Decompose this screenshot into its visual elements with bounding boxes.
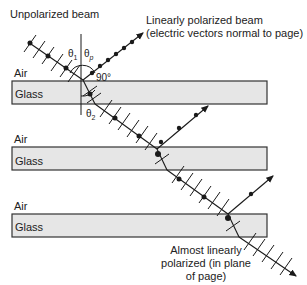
- theta2-label: θ2: [86, 108, 95, 124]
- air-label-2: Air: [14, 133, 27, 145]
- unpolarized-beam-label: Unpolarized beam: [10, 8, 99, 20]
- almost-polarized-label-line2: polarized (in plane: [153, 257, 259, 269]
- theta1-label: θ1: [68, 48, 77, 64]
- glass-slab-1: [12, 81, 267, 104]
- glass-label-2: Glass: [15, 155, 43, 167]
- linearly-polarized-label-line2: (electric vectors normal to page): [146, 27, 303, 39]
- reflected-beam-3: [228, 176, 273, 214]
- air-label-3: Air: [14, 200, 27, 212]
- linearly-polarized-label-line1: Linearly polarized beam: [146, 14, 263, 26]
- glass-slab-2: [12, 147, 267, 170]
- thetap-label: θp: [84, 48, 93, 64]
- glass-label-3: Glass: [15, 221, 43, 233]
- right-angle-label: 90°: [96, 72, 111, 84]
- almost-polarized-label-line3: of page): [166, 270, 246, 282]
- polarization-diagram: [0, 0, 307, 285]
- air-label-1: Air: [14, 67, 27, 79]
- reflected-beam-2: [157, 106, 208, 149]
- almost-polarized-label-line1: Almost linearly: [166, 244, 246, 256]
- glass-label-1: Glass: [15, 88, 43, 100]
